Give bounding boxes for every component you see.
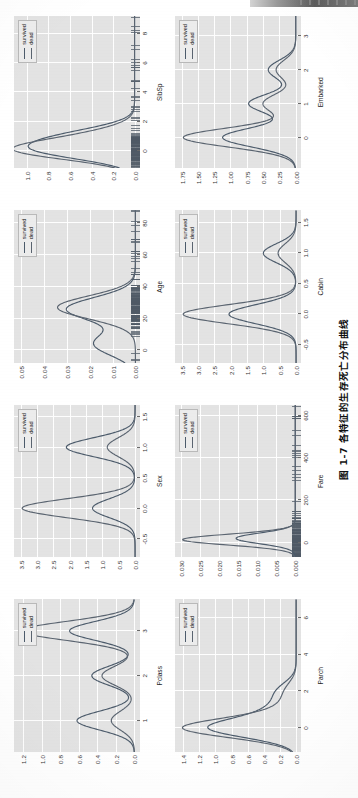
- plot-area: surviveddead: [175, 16, 301, 169]
- x-tick-mark: [298, 103, 301, 104]
- x-axis-labels: 0123: [301, 16, 315, 169]
- y-tick-label: 1.0: [23, 172, 30, 181]
- legend: surviveddead: [179, 20, 198, 63]
- x-axis-labels: 0200400600: [301, 405, 315, 558]
- legend-line-swatch: [31, 242, 32, 253]
- x-tick-label: 0.0: [302, 310, 309, 319]
- y-tick-label: 1.2: [196, 755, 203, 764]
- x-tick-mark: [137, 62, 140, 63]
- x-tick-mark: [298, 344, 301, 345]
- plot-area: surviveddead: [14, 600, 140, 753]
- x-tick-mark: [137, 349, 140, 350]
- y-tick-label: 0.8: [57, 755, 64, 764]
- y-tick-label: 1.25: [211, 172, 218, 184]
- x-tick-label: 2: [302, 69, 309, 72]
- legend-entry-dead: dead: [28, 24, 34, 59]
- y-tick-label: 0.00: [132, 366, 139, 378]
- curve-dead: [183, 16, 295, 169]
- y-tick-label: 0.05: [17, 366, 24, 378]
- y-tick-label: 0.0: [293, 755, 300, 764]
- y-tick-label: 2.0: [227, 366, 234, 375]
- x-tick-label: 8: [141, 32, 148, 35]
- curve-dead: [182, 600, 296, 753]
- x-tick-mark: [298, 222, 301, 223]
- x-tick-mark: [298, 690, 301, 691]
- curve-survived: [229, 211, 296, 364]
- y-tick-label: 0.8: [45, 172, 52, 181]
- y-tick-label: 0.015: [235, 561, 242, 577]
- y-tick-label: 0.6: [75, 755, 82, 764]
- legend: surviveddead: [18, 409, 37, 452]
- y-tick-label: 0.50: [260, 172, 267, 184]
- curve-survived: [236, 405, 295, 558]
- x-tick-mark: [137, 150, 140, 151]
- y-axis-labels: 0.0000.0050.0100.0150.0200.0250.030: [175, 558, 301, 588]
- x-tick-label: 0.5: [302, 279, 309, 288]
- legend-label: dead: [28, 32, 34, 44]
- x-axis-title: Age: [154, 211, 165, 364]
- x-tick-mark: [137, 630, 140, 631]
- curve-dead: [22, 405, 135, 558]
- curve-dead: [183, 211, 296, 364]
- y-axis-labels: 0.000.010.020.030.040.05: [14, 363, 140, 393]
- x-tick-label: 600: [302, 410, 309, 420]
- y-tick-label: 0.4: [94, 755, 101, 764]
- x-tick-mark: [137, 416, 140, 417]
- x-tick-label: 1.0: [302, 249, 309, 258]
- y-tick-label: 3.5: [17, 561, 24, 570]
- legend-label: survived: [21, 413, 27, 434]
- x-tick-mark: [298, 283, 301, 284]
- x-axis-labels: 0246: [301, 600, 315, 753]
- y-tick-label: 1.0: [212, 755, 219, 764]
- x-tick-label: 4: [302, 653, 309, 656]
- panel-cabin: 0.00.51.01.52.02.53.03.5surviveddead-0.5…: [175, 211, 326, 394]
- y-axis-labels: 0.00.20.40.60.81.01.2: [14, 752, 140, 782]
- x-tick-label: 4: [141, 91, 148, 94]
- x-tick-mark: [298, 654, 301, 655]
- legend: surviveddead: [18, 20, 37, 63]
- legend-line-swatch: [192, 631, 193, 642]
- y-tick-label: 0.6: [67, 172, 74, 181]
- legend-line-swatch: [185, 437, 186, 448]
- y-tick-label: 0.010: [254, 561, 261, 577]
- x-tick-mark: [298, 617, 301, 618]
- x-tick-mark: [298, 499, 301, 500]
- legend: surviveddead: [179, 215, 198, 258]
- x-tick-mark: [298, 727, 301, 728]
- x-tick-label: 1: [141, 719, 148, 722]
- y-tick-label: 2.5: [50, 561, 57, 570]
- x-axis-title: Sex: [154, 405, 165, 558]
- x-tick-mark: [137, 33, 140, 34]
- legend-line-swatch: [185, 48, 186, 59]
- legend-entry-dead: dead: [28, 608, 34, 643]
- legend-label: dead: [28, 616, 34, 628]
- y-tick-label: 1.0: [260, 366, 267, 375]
- x-tick-label: 40: [141, 283, 148, 290]
- y-tick-label: 0.75: [243, 172, 250, 184]
- panel-sex: 0.00.51.01.52.02.53.03.5surviveddead-0.5…: [14, 405, 165, 588]
- x-tick-mark: [137, 254, 140, 255]
- x-tick-label: 1.5: [302, 218, 309, 227]
- y-tick-label: 0.02: [86, 366, 93, 378]
- legend-entry-dead: dead: [189, 219, 195, 254]
- x-axis-title: Embarked: [315, 16, 326, 169]
- legend-label: dead: [189, 421, 195, 433]
- legend-label: survived: [21, 24, 27, 45]
- x-tick-label: -0.5: [302, 339, 309, 350]
- legend-entry-dead: dead: [189, 608, 195, 643]
- y-tick-label: 0.5: [115, 561, 122, 570]
- y-tick-label: 0.6: [244, 755, 251, 764]
- legend-entry-survived: survived: [182, 219, 188, 254]
- y-tick-label: 0.2: [110, 172, 117, 181]
- y-tick-label: 0.03: [63, 366, 70, 378]
- panel-fare: 0.0000.0050.0100.0150.0200.0250.030survi…: [175, 405, 326, 588]
- x-axis-labels: 123: [140, 600, 154, 753]
- x-tick-label: 3: [141, 629, 148, 632]
- x-tick-label: 0: [302, 726, 309, 729]
- x-tick-label: 0: [141, 149, 148, 152]
- legend-line-swatch: [31, 48, 32, 59]
- curve-survived: [66, 211, 135, 364]
- y-tick-label: 0.005: [273, 561, 280, 577]
- x-tick-label: 0: [302, 541, 309, 544]
- x-tick-label: 2: [141, 674, 148, 677]
